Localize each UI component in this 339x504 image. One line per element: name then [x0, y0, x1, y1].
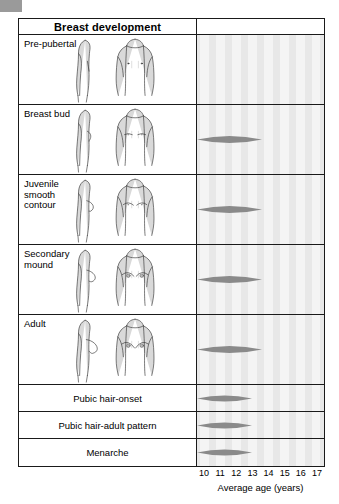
stage-label-cell: Juvenile smooth contour: [19, 175, 197, 244]
table-row: Breast bud: [19, 105, 324, 175]
event-label-cell: Menarche: [19, 439, 197, 466]
age-range-marker: [197, 133, 262, 146]
table-row: Secondary mound: [19, 245, 324, 315]
header-label-cell: Breast development: [19, 19, 197, 34]
stage-label: Juvenile smooth contour: [24, 179, 59, 211]
age-range-marker: [197, 273, 262, 286]
event-chart-cell: [197, 439, 324, 466]
event-label: Menarche: [19, 439, 196, 466]
header-chart-cell: [197, 19, 324, 34]
scan-artifact: [0, 0, 22, 12]
table-row: Pre-pubertal: [19, 35, 324, 105]
axis-tick: 12: [231, 468, 241, 478]
table-header-row: Breast development: [19, 19, 324, 35]
axis-title: Average age (years): [218, 482, 304, 493]
table-row: Adult: [19, 315, 324, 385]
age-range-marker: [197, 343, 262, 356]
event-label: Pubic hair-adult pattern: [19, 412, 196, 438]
table-row: Menarche: [19, 439, 324, 466]
stage-label: Adult: [24, 319, 46, 330]
event-label-cell: Pubic hair-onset: [19, 385, 197, 411]
axis-tick: 17: [312, 468, 322, 478]
table-body: Pre-pubertalBreast budJuvenile smooth co…: [19, 35, 324, 466]
stage-chart-cell: [197, 315, 324, 384]
table-row: Pubic hair-onset: [19, 385, 324, 412]
event-chart-cell: [197, 412, 324, 438]
axis-tick: 13: [247, 468, 257, 478]
axis-tick: 11: [216, 468, 225, 478]
age-range-marker: [197, 393, 252, 404]
page-title: Breast development: [19, 19, 196, 34]
age-axis: 1011121314151617 Average age (years): [196, 468, 325, 502]
event-label-cell: Pubic hair-adult pattern: [19, 412, 197, 438]
age-range-marker: [197, 203, 262, 216]
age-range-marker: [197, 447, 252, 458]
stage-label-cell: Pre-pubertal: [19, 35, 197, 104]
age-range-marker: [197, 420, 252, 431]
axis-tick: 10: [199, 468, 209, 478]
axis-tick: 16: [296, 468, 306, 478]
stage-label-cell: Secondary mound: [19, 245, 197, 314]
event-chart-cell: [197, 385, 324, 411]
gridline-bands: [197, 35, 324, 104]
stage-label-cell: Breast bud: [19, 105, 197, 174]
table-row: Pubic hair-adult pattern: [19, 412, 324, 439]
event-label: Pubic hair-onset: [19, 385, 196, 411]
stage-label: Breast bud: [24, 109, 70, 120]
stage-label: Pre-pubertal: [24, 39, 76, 50]
stage-chart-cell: [197, 105, 324, 174]
axis-tick: 15: [280, 468, 290, 478]
table-row: Juvenile smooth contour: [19, 175, 324, 245]
stage-chart-cell: [197, 245, 324, 314]
stage-label: Secondary mound: [24, 249, 69, 270]
stage-label-cell: Adult: [19, 315, 197, 384]
stage-chart-cell: [197, 175, 324, 244]
breast-development-figure: Breast development Pre-pubertalBreast bu…: [18, 18, 325, 467]
stage-chart-cell: [197, 35, 324, 104]
axis-tick: 14: [264, 468, 274, 478]
axis-tick-labels: 1011121314151617: [196, 468, 325, 481]
